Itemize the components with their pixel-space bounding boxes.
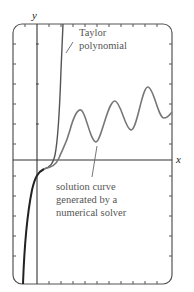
x-axis-label: x xyxy=(175,153,181,165)
solver-label-line3: numerical solver xyxy=(56,207,127,218)
taylor-label-line1: Taylor xyxy=(79,27,107,38)
taylor-leader-line xyxy=(66,42,73,53)
taylor-label-line2: polynomial xyxy=(79,40,127,51)
taylor-polynomial-curve xyxy=(44,24,63,169)
solver-label-line2: generated by a xyxy=(56,194,118,205)
taylor-vs-numerical-figure: y x Taylor polynomial solution curve gen… xyxy=(0,0,194,292)
solver-leader-line xyxy=(92,146,97,177)
solver-label-line1: solution curve xyxy=(56,181,116,192)
solution-curve xyxy=(44,87,172,169)
lower-branch-curve xyxy=(23,169,44,284)
y-axis-label: y xyxy=(31,9,37,21)
